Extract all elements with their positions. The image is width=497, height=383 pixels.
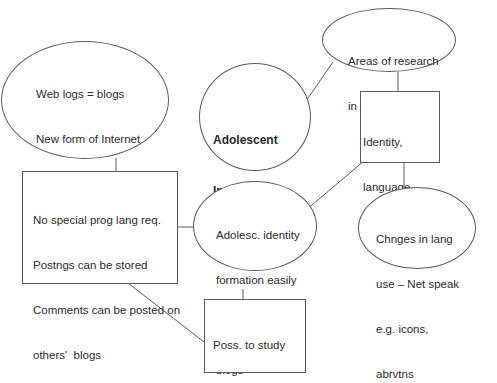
text-line: No special prog lang req.	[33, 213, 180, 228]
text-line: Adolescent	[213, 132, 302, 149]
node-chnges-text: Chnges in lang use – Net speak e.g. icon…	[376, 202, 459, 383]
text-line: Chnges in lang	[376, 232, 459, 247]
text-line: others' blogs	[33, 348, 180, 363]
text-line: Identity,	[363, 135, 444, 150]
node-features-text: No special prog lang req. Postngs can be…	[33, 183, 180, 383]
edge-central-areas	[306, 62, 333, 101]
text-line: Web logs = blogs	[36, 87, 141, 102]
text-line: abrvtns	[376, 367, 459, 382]
text-line: formation easily	[216, 273, 300, 288]
text-line: use – Net speak	[376, 277, 459, 292]
text-line: Adolesc. identity	[216, 228, 300, 243]
text-line: e.g. icons,	[376, 322, 459, 337]
text-line: Poss. to study	[213, 338, 303, 353]
text-line: Comments can be posted on	[33, 303, 180, 318]
text-line: New form of Internet	[36, 132, 141, 147]
node-poss-text: Poss. to study a) self expression b) int…	[213, 308, 303, 383]
text-line: Postngs can be stored	[33, 258, 180, 273]
text-line: Areas of research	[348, 54, 439, 69]
